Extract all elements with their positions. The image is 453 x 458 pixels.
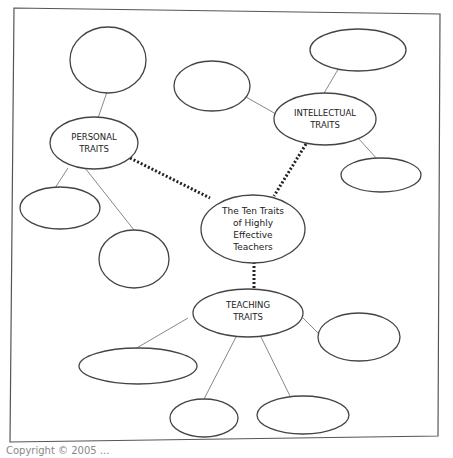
personal-label-1: PERSONAL: [71, 132, 117, 142]
center-label-1: The Ten Traits: [221, 206, 284, 216]
intellectual-label-2: TRAITS: [309, 120, 340, 130]
center-label-2: of Highly: [233, 218, 274, 228]
intellectual-label-1: INTELLECTUAL: [294, 108, 356, 118]
blank-node-intellectual-1[interactable]: [310, 29, 406, 71]
personal-label-2: TRAITS: [78, 144, 109, 154]
blank-node-personal-2[interactable]: [20, 187, 100, 229]
blank-node-intellectual-2[interactable]: [174, 61, 250, 111]
blank-node-teaching-4[interactable]: [257, 396, 349, 434]
center-label-3: Effective: [233, 230, 273, 240]
blank-node-teaching-3[interactable]: [170, 399, 238, 437]
personal-traits-node: [50, 117, 138, 169]
center-label-4: Teachers: [232, 242, 273, 252]
concept-map: PERSONAL TRAITS INTELLECTUAL TRAITS TEAC…: [0, 0, 453, 458]
blank-node-personal-1[interactable]: [70, 27, 146, 93]
copyright-footer: Copyright © 2005 ...: [6, 445, 109, 456]
teaching-label-2: TRAITS: [232, 312, 263, 322]
teaching-label-1: TEACHING: [225, 300, 270, 310]
blank-node-teaching-1[interactable]: [318, 313, 400, 361]
blank-node-teaching-2[interactable]: [79, 348, 197, 384]
blank-node-personal-3[interactable]: [99, 230, 169, 288]
blank-node-intellectual-3[interactable]: [341, 158, 421, 192]
intellectual-traits-node: [274, 93, 376, 145]
